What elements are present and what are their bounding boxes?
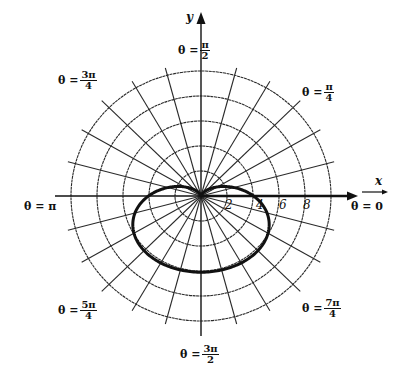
polar-graph: y x 2 4 6 8 θ = π2 θ = 3π4 θ = π4 θ = π …: [0, 0, 408, 381]
fraction: 3π2: [202, 344, 218, 365]
angle-prefix: θ =: [58, 74, 78, 87]
grid-ray-210: [82, 196, 201, 262]
angle-label-pi-over-4: θ = π4: [302, 82, 334, 103]
fraction: 3π4: [80, 70, 96, 91]
denominator: 4: [329, 309, 336, 319]
grid-ray-75: [201, 68, 237, 196]
denominator: 4: [85, 81, 92, 91]
grid-ray-105: [165, 68, 201, 196]
grid-ray-120: [132, 81, 201, 196]
x-label-arrow-icon: [382, 190, 388, 195]
grid-ray-255: [165, 196, 201, 324]
grid-ray-240: [132, 196, 201, 311]
fraction: π4: [324, 82, 333, 103]
angle-label-pi-over-2: θ = π2: [178, 40, 210, 61]
angle-prefix: θ =: [302, 302, 322, 315]
radial-tick-4: 4: [256, 198, 264, 212]
grid-ray-285: [201, 196, 237, 324]
angle-text: θ = π: [24, 200, 56, 213]
angle-prefix: θ =: [58, 304, 78, 317]
angle-label-7pi-over-4: θ = 7π4: [302, 298, 341, 319]
angle-label-5pi-over-4: θ = 5π4: [58, 300, 97, 321]
angle-label-3pi-over-4: θ = 3π4: [58, 70, 97, 91]
radial-tick-6: 6: [279, 198, 287, 212]
grid-ray-60: [201, 81, 270, 196]
angle-label-3pi-over-2: θ = 3π2: [180, 344, 219, 365]
y-axis-arrow-icon: [197, 12, 206, 24]
angle-text: θ = 0: [351, 200, 383, 213]
angle-label-0: θ = 0: [351, 200, 383, 213]
denominator: 2: [207, 355, 214, 365]
axes: [55, 12, 388, 336]
fraction: 7π4: [324, 298, 340, 319]
radial-tick-8: 8: [303, 198, 311, 212]
y-axis-label: y: [186, 10, 193, 24]
angle-prefix: θ =: [302, 86, 322, 99]
grid-ray-300: [201, 196, 270, 311]
fraction: π2: [200, 40, 209, 61]
radial-tick-2: 2: [225, 198, 233, 212]
angle-prefix: θ =: [180, 348, 200, 361]
angle-label-pi: θ = π: [24, 200, 56, 213]
fraction: 5π4: [80, 300, 96, 321]
grid-ray-15: [201, 162, 334, 196]
denominator: 2: [202, 51, 209, 61]
angle-prefix: θ =: [178, 44, 198, 57]
denominator: 4: [326, 93, 333, 103]
grid-ray-165: [68, 162, 201, 196]
denominator: 4: [85, 311, 92, 321]
x-axis-label: x: [375, 174, 382, 188]
